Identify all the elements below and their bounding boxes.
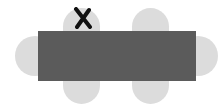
x-mark-icon [73,7,93,29]
table [38,31,196,81]
